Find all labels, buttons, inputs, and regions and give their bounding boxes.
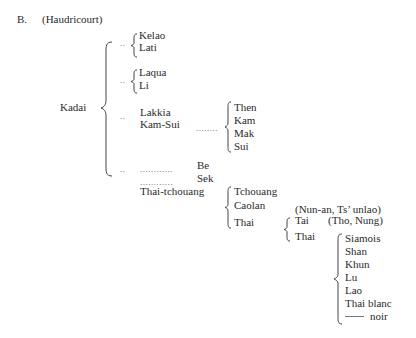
node-khun: Khun (345, 258, 369, 270)
root-node-kadai: Kadai (60, 101, 86, 113)
node-sui: Sui (234, 140, 249, 152)
source-citation: (Haudricourt) (42, 13, 102, 25)
node-thai-blanc: Thai blanc (345, 297, 392, 309)
node-lakkia: Lakkia (140, 106, 171, 118)
node-kelao: Kelao (139, 29, 165, 41)
node-tchouang: Tchouang (234, 185, 277, 197)
node-mak: Mak (234, 127, 254, 139)
thai-brace (283, 217, 291, 242)
node-caolan: Caolan (234, 199, 265, 211)
node-thai-noir: noir (370, 310, 388, 322)
node-thai-tchouang: Thai-tchouang (140, 185, 204, 197)
group-marker: .. (120, 75, 126, 85)
group-marker: .. (120, 38, 126, 48)
node-tai: Tai (295, 214, 309, 226)
node-laqua: Laqua (139, 66, 166, 78)
node-shan: Shan (345, 245, 367, 257)
be-leader: ............ (140, 164, 173, 174)
group-marker: .. (120, 111, 126, 121)
node-kam-sui: Kam-Sui (140, 118, 180, 130)
kadai-brace (100, 42, 114, 176)
thai-leaves-brace (333, 233, 343, 325)
kam-sui-leader: ........ (196, 123, 218, 133)
node-kam: Kam (234, 114, 255, 126)
group-marker: .. (120, 164, 126, 174)
kam-sui-brace (224, 101, 232, 153)
group1-brace (131, 33, 138, 58)
node-li: Li (139, 79, 149, 91)
node-thai: Thai (234, 216, 254, 228)
node-lati: Lati (139, 41, 157, 53)
section-label: B. (17, 13, 27, 25)
ditto-dash (345, 316, 364, 317)
node-be: Be (197, 159, 209, 171)
group2-brace (131, 69, 138, 94)
tai-note: (Tho, Nung) (328, 214, 383, 226)
node-thai-sub: Thai (295, 230, 315, 242)
node-then: Then (234, 101, 257, 113)
thai-tchouang-brace (224, 186, 232, 229)
node-lao: Lao (345, 284, 362, 296)
node-siamois: Siamois (345, 232, 380, 244)
node-lu: Lu (345, 271, 357, 283)
node-sek: Sek (197, 172, 214, 184)
